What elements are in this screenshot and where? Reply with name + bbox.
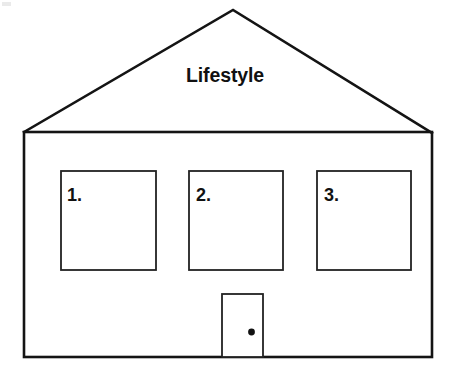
window-label-2: 2. <box>196 186 211 204</box>
window-label-3: 3. <box>324 186 339 204</box>
door-frame[interactable] <box>222 294 263 357</box>
doorknob-icon <box>248 329 255 336</box>
house-diagram-canvas: Lifestyle 1. 2. 3. <box>0 0 450 374</box>
gable-title: Lifestyle <box>0 64 450 87</box>
window-label-1: 1. <box>67 186 82 204</box>
